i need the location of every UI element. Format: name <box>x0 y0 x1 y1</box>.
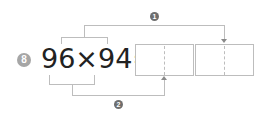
step-badge-1: 1 <box>150 12 159 21</box>
divider-dashed-2 <box>224 46 225 75</box>
arrow-down-icon <box>221 39 227 43</box>
problem-number-badge: 8 <box>17 53 31 67</box>
divider-dashed-1 <box>164 46 165 75</box>
step-badge-2: 2 <box>114 100 123 109</box>
arrow-up-icon <box>161 76 167 80</box>
